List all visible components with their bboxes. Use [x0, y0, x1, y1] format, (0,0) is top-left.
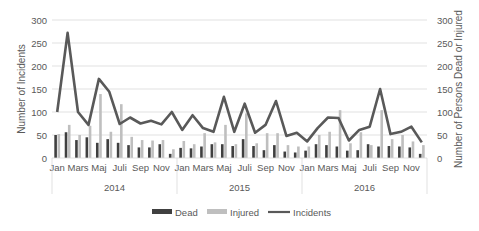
dead-bar: [263, 150, 266, 158]
dead-bar: [336, 147, 339, 159]
dead-bar: [211, 144, 214, 158]
injured-bar: [308, 147, 311, 159]
legend-label: Injured: [230, 207, 259, 218]
injured-bar: [360, 132, 363, 158]
injured-legend-swatch: [207, 209, 227, 214]
year-label: 2015: [229, 182, 250, 193]
right-tick-label: 200: [437, 61, 453, 72]
legend-label: Dead: [175, 207, 198, 218]
left-tick-label: 200: [31, 61, 47, 72]
month-tick-label: Sep: [257, 162, 274, 173]
month-tick-label: Juli: [113, 162, 127, 173]
dead-bar: [200, 147, 203, 159]
dead-bar: [294, 152, 297, 158]
dead-bar: [65, 132, 68, 158]
injured-bar: [235, 144, 238, 158]
dead-bar: [117, 143, 120, 158]
injured-bar: [203, 133, 206, 158]
dead-bar: [419, 154, 422, 158]
injured-bar: [287, 145, 290, 158]
injured-bar: [297, 147, 300, 159]
legend: DeadInjuredIncidents: [152, 207, 331, 218]
left-tick-label: 250: [31, 38, 47, 49]
month-tick-label: Mars: [192, 162, 213, 173]
dead-bar: [408, 147, 411, 158]
injured-bar: [141, 140, 144, 158]
injured-bar: [380, 110, 383, 158]
dead-bar: [75, 140, 78, 158]
injured-bar: [401, 135, 404, 158]
dead-bar: [283, 152, 286, 158]
legend-label: Incidents: [293, 207, 331, 218]
month-tick-label: Maj: [216, 162, 231, 173]
dead-bar: [315, 144, 318, 158]
left-tick-label: 100: [31, 107, 47, 118]
injured-bar: [120, 104, 123, 158]
injured-bar: [422, 145, 425, 158]
right-tick-label: 0: [437, 153, 442, 164]
incidents-line: [57, 33, 422, 142]
dead-bar: [127, 145, 130, 158]
injured-bar: [266, 133, 269, 158]
dead-bar: [304, 151, 307, 158]
month-tick-label: Nov: [403, 162, 420, 173]
injured-bar: [255, 143, 258, 158]
month-tick-label: Juli: [238, 162, 252, 173]
injured-bar: [276, 133, 279, 158]
right-tick-label: 100: [437, 107, 453, 118]
injured-bar: [162, 140, 165, 158]
dead-legend-swatch: [152, 209, 172, 214]
dead-bar: [377, 147, 380, 159]
injured-bar: [224, 125, 227, 158]
injured-bar: [68, 125, 71, 158]
dead-bar: [252, 146, 255, 158]
dead-bar: [96, 143, 99, 158]
month-tick-label: Nov: [153, 162, 170, 173]
left-tick-label: 300: [31, 15, 47, 26]
dead-bar: [179, 148, 182, 158]
left-tick-label: 150: [31, 84, 47, 95]
injured-bar: [89, 126, 92, 158]
dead-bar: [398, 147, 401, 159]
dead-bar: [138, 147, 141, 158]
dead-bar: [388, 146, 391, 158]
dead-bar: [106, 139, 109, 158]
injured-bar: [172, 149, 175, 158]
injured-bar: [318, 135, 321, 158]
month-tick-label: Sep: [382, 162, 399, 173]
dead-bar: [242, 139, 245, 158]
line-series: [57, 33, 422, 142]
right-tick-label: 150: [437, 84, 453, 95]
left-axis-title: Number of Incidents: [16, 44, 27, 134]
month-tick-label: Maj: [91, 162, 106, 173]
dead-bar: [158, 144, 161, 158]
injured-bar: [151, 141, 154, 158]
year-label: 2016: [354, 182, 375, 193]
dead-bar: [190, 148, 193, 158]
dead-bar: [148, 147, 151, 158]
month-tick-label: Juli: [363, 162, 377, 173]
right-tick-label: 50: [437, 130, 448, 141]
dead-bar: [169, 154, 172, 158]
injured-bar: [214, 142, 217, 158]
dead-bar: [367, 144, 370, 158]
injured-bar: [349, 143, 352, 158]
injured-bar: [370, 145, 373, 158]
injured-bar: [328, 132, 331, 158]
injured-bar: [183, 141, 186, 158]
dead-bar: [356, 150, 359, 158]
right-tick-label: 250: [437, 38, 453, 49]
dead-bar: [346, 151, 349, 158]
month-tick-label: Nov: [278, 162, 295, 173]
injured-bar: [110, 132, 113, 158]
dead-bar: [231, 146, 234, 158]
month-tick-label: Sep: [132, 162, 149, 173]
month-tick-label: Mars: [67, 162, 88, 173]
dead-bar: [86, 137, 89, 158]
injured-bar: [78, 135, 81, 158]
injured-bar: [412, 141, 415, 158]
month-tick-label: Maj: [341, 162, 356, 173]
injured-bar: [58, 134, 61, 158]
injured-bar: [391, 139, 394, 158]
injured-bar: [193, 144, 196, 158]
